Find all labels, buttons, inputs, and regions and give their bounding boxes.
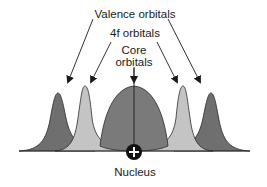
arrow-4f-right — [157, 42, 177, 82]
label-core-line2: orbitals — [115, 56, 152, 68]
arrow-valence-left — [68, 19, 93, 82]
label-valence-orbitals: Valence orbitals — [95, 8, 176, 20]
label-core-line1: Core — [122, 44, 147, 56]
nucleus-icon — [126, 144, 142, 160]
arrow-4f-left — [91, 42, 111, 82]
orbital-diagram: Valence orbitals 4f orbitals Core orbita… — [0, 0, 267, 187]
arrow-valence-right — [168, 19, 200, 82]
label-4f-orbitals: 4f orbitals — [110, 27, 160, 39]
label-nucleus: Nucleus — [114, 166, 156, 178]
